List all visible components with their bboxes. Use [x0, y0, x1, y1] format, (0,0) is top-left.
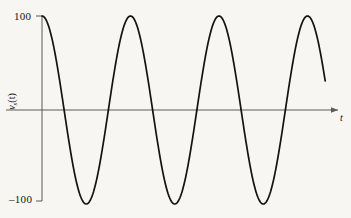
y-axis-label-subscript: s: [11, 103, 19, 106]
y-axis-min-label: –100: [9, 193, 32, 205]
y-axis-label: vs(t): [6, 82, 19, 122]
y-axis-max-label: 100: [14, 10, 31, 22]
y-axis-label-main: v: [6, 105, 17, 109]
figure-panel: 100 –100 t vs(t): [0, 0, 351, 218]
y-axis-label-argument: (t): [6, 93, 17, 102]
x-axis-arrow-icon: [331, 107, 338, 113]
x-axis-label: t: [340, 112, 343, 123]
waveform-plot: [0, 0, 351, 218]
